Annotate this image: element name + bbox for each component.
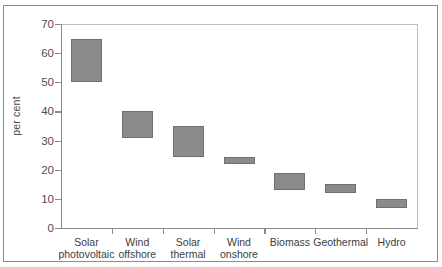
- y-tick-label: 60: [24, 47, 54, 59]
- y-tick-label: 40: [24, 105, 54, 117]
- x-category-label: Hydro: [362, 237, 421, 249]
- x-tick-mark: [163, 229, 164, 234]
- bar: [274, 173, 305, 190]
- bar: [71, 39, 102, 83]
- x-tick-mark: [112, 229, 113, 234]
- chart-figure: per cent 010203040506070 Solarphotovolta…: [0, 0, 442, 267]
- y-axis-label: per cent: [10, 86, 22, 146]
- y-axis-line: [61, 24, 62, 229]
- x-category-label-line1: Hydro: [362, 237, 421, 249]
- y-tick-label: 10: [24, 193, 54, 205]
- bar: [122, 111, 153, 137]
- x-tick-mark: [315, 229, 316, 234]
- x-axis-line: [61, 228, 418, 229]
- y-tick-label: 70: [24, 18, 54, 30]
- plot-border-top: [61, 24, 418, 25]
- y-tick-mark: [55, 228, 61, 229]
- y-tick-mark: [55, 82, 61, 83]
- plot-border-right: [417, 24, 418, 229]
- y-tick-mark: [55, 24, 61, 25]
- y-tick-mark: [55, 53, 61, 54]
- y-tick-mark: [55, 111, 61, 112]
- figure-border: [3, 5, 438, 262]
- x-category-label-line2: onshore: [210, 249, 269, 261]
- x-tick-mark: [366, 229, 367, 234]
- x-tick-mark: [214, 229, 215, 234]
- y-tick-mark: [55, 170, 61, 171]
- y-tick-label: 30: [24, 135, 54, 147]
- bar: [224, 157, 255, 164]
- bar: [173, 126, 204, 157]
- y-tick-mark: [55, 141, 61, 142]
- y-tick-label: 20: [24, 164, 54, 176]
- x-tick-mark: [264, 229, 265, 234]
- bar: [325, 184, 356, 193]
- y-tick-label: 50: [24, 76, 54, 88]
- y-tick-label: 0: [24, 222, 54, 234]
- y-tick-mark: [55, 199, 61, 200]
- bar: [376, 199, 407, 208]
